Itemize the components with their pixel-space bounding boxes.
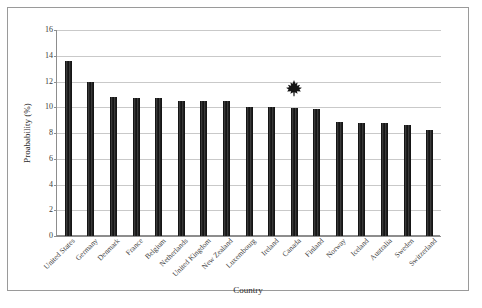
- bar: [178, 101, 185, 236]
- bar: [381, 123, 388, 236]
- x-axis-category-label: Australia: [368, 237, 393, 262]
- y-tick-label: 0: [49, 232, 53, 240]
- bar: [87, 82, 94, 237]
- maple-leaf-icon: [285, 79, 303, 97]
- bar: [110, 97, 117, 236]
- x-axis-category-label: Finland: [304, 237, 326, 259]
- x-axis-category-label: United States: [43, 237, 77, 271]
- x-axis-category-label: Ireland: [260, 237, 280, 257]
- y-tick-label: 10: [45, 103, 53, 111]
- bar: [200, 101, 207, 236]
- x-axis-title: Country: [56, 286, 440, 295]
- x-axis-category-label: Denmark: [97, 237, 122, 262]
- y-axis-title: Proabability (%): [21, 30, 33, 236]
- y-tick-label: 6: [49, 155, 53, 163]
- x-axis-category-label: Canada: [281, 237, 302, 258]
- y-tick-label: 14: [45, 52, 53, 60]
- y-tick-label: 16: [45, 26, 53, 34]
- y-tick-label: 2: [49, 206, 53, 214]
- bar: [155, 98, 162, 236]
- x-axis-category-labels: United StatesGermanyDenmarkFranceBelgium…: [56, 237, 440, 283]
- bar: [358, 123, 365, 236]
- bar: [313, 109, 320, 236]
- chart-figure-frame: 0246810121416 United StatesGermanyDenmar…: [7, 7, 469, 291]
- y-tick-label: 12: [45, 78, 53, 86]
- bar: [268, 107, 275, 236]
- x-axis-category-label: Germany: [74, 237, 99, 262]
- bar: [291, 108, 298, 236]
- bar: [336, 122, 343, 236]
- bar: [426, 130, 433, 236]
- bar: [246, 107, 253, 236]
- y-tick-label: 4: [49, 181, 53, 189]
- plot-area: 0246810121416: [56, 30, 440, 236]
- bar: [133, 98, 140, 236]
- bar: [404, 125, 411, 236]
- bar: [65, 61, 72, 236]
- x-axis-category-label: Norway: [325, 237, 347, 259]
- bars-layer: [57, 30, 441, 236]
- bar: [223, 101, 230, 236]
- y-tick-label: 8: [49, 129, 53, 137]
- x-axis-category-label: France: [125, 237, 145, 257]
